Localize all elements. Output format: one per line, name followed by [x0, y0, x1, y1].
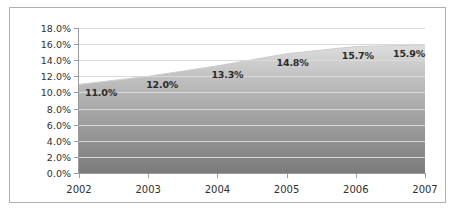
- plot-area: 0.0%2.0%4.0%6.0%8.0%10.0%12.0%14.0%16.0%…: [79, 28, 425, 173]
- x-axis-tick: [356, 173, 357, 178]
- y-axis-label: 18.0%: [41, 23, 71, 34]
- y-axis-label: 6.0%: [47, 119, 71, 130]
- data-label: 12.0%: [146, 79, 178, 90]
- x-axis-label: 2002: [66, 184, 91, 195]
- gridline: [79, 157, 425, 158]
- y-axis-label: 4.0%: [47, 135, 71, 146]
- y-axis-tick: [74, 92, 79, 93]
- data-label: 13.3%: [211, 69, 243, 80]
- y-axis-tick: [74, 125, 79, 126]
- chart-figure: 0.0%2.0%4.0%6.0%8.0%10.0%12.0%14.0%16.0%…: [9, 7, 446, 203]
- gridline: [79, 76, 425, 77]
- gridline: [79, 109, 425, 110]
- y-axis-label: 0.0%: [47, 168, 71, 179]
- x-axis-label: 2006: [343, 184, 368, 195]
- y-axis-tick: [74, 109, 79, 110]
- gridline: [79, 28, 425, 29]
- y-axis-tick: [74, 157, 79, 158]
- y-axis-line: [78, 28, 79, 173]
- x-axis-tick: [79, 173, 80, 178]
- x-axis-tick: [148, 173, 149, 178]
- y-axis-label: 2.0%: [47, 151, 71, 162]
- x-axis-label: 2004: [205, 184, 230, 195]
- x-axis-label: 2005: [274, 184, 299, 195]
- data-label: 14.8%: [277, 57, 309, 68]
- data-label: 11.0%: [85, 87, 117, 98]
- gridline: [79, 141, 425, 142]
- x-axis-tick: [287, 173, 288, 178]
- x-axis-tick: [425, 173, 426, 178]
- y-axis-label: 16.0%: [41, 39, 71, 50]
- x-axis-tick: [217, 173, 218, 178]
- data-label: 15.7%: [342, 50, 374, 61]
- y-axis-tick: [74, 141, 79, 142]
- gridline: [79, 125, 425, 126]
- x-axis-label: 2003: [135, 184, 160, 195]
- y-axis-label: 12.0%: [41, 71, 71, 82]
- x-axis-label: 2007: [412, 184, 437, 195]
- gridline: [79, 44, 425, 45]
- data-label: 15.9%: [393, 48, 425, 59]
- y-axis-tick: [74, 76, 79, 77]
- y-axis-label: 10.0%: [41, 87, 71, 98]
- y-axis-tick: [74, 60, 79, 61]
- gridline: [79, 92, 425, 93]
- y-axis-tick: [74, 28, 79, 29]
- y-axis-label: 8.0%: [47, 103, 71, 114]
- x-axis-line: [78, 173, 425, 174]
- y-axis-label: 14.0%: [41, 55, 71, 66]
- y-axis-tick: [74, 44, 79, 45]
